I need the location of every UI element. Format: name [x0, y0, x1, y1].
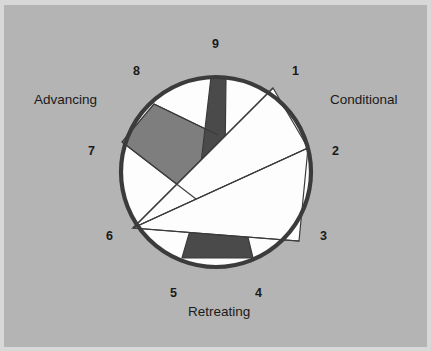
axis-number-5: 5 [170, 287, 177, 300]
pole-label-advancing: Advancing [34, 93, 97, 107]
axis-number-4: 4 [255, 287, 262, 300]
axis-number-1: 1 [292, 65, 299, 78]
rose-diagram-canvas [0, 0, 431, 351]
pole-label-retreating: Retreating [188, 305, 250, 319]
axis-number-2: 2 [332, 145, 339, 158]
axis-number-6: 6 [106, 230, 113, 243]
axis-number-9: 9 [212, 38, 219, 51]
rose-diagram-figure: 1 2 3 4 5 6 7 8 9 Advancing Conditional … [0, 0, 431, 351]
axis-number-3: 3 [320, 230, 327, 243]
axis-number-7: 7 [88, 145, 95, 158]
pole-label-conditional: Conditional [330, 93, 398, 107]
axis-number-8: 8 [133, 65, 140, 78]
